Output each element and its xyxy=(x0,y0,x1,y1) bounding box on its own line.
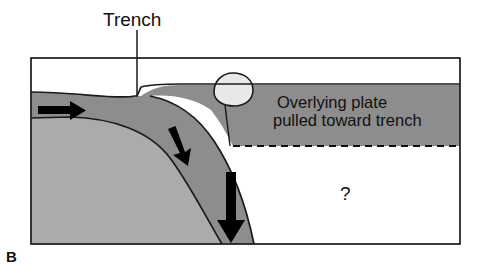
overlying-plate-annotation: Overlying platepulled toward trench xyxy=(277,93,422,130)
volcanic-island-arc xyxy=(214,73,253,106)
unknown-region-question-mark: ? xyxy=(340,183,351,204)
trench-label: Trench xyxy=(103,9,161,30)
overlying-plate-annotation-line2: pulled toward trench xyxy=(273,111,422,129)
overlying-plate-annotation-line1: Overlying plate xyxy=(277,93,387,111)
diagram-canvas xyxy=(0,0,485,274)
panel-letter-label: B xyxy=(6,249,17,266)
subduction-diagram: Trench Overlying platepulled toward tren… xyxy=(0,0,485,274)
